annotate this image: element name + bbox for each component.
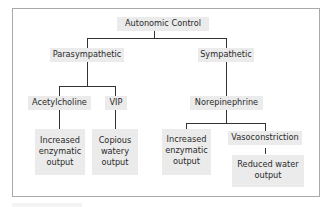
node-label-line: Increased (164, 134, 209, 145)
node-label-line: watery (94, 146, 136, 157)
connector (265, 123, 266, 131)
node-label-line: output (94, 157, 136, 168)
node-label-line: enzymatic (164, 145, 209, 156)
node-label-line: Reduced water (234, 159, 302, 170)
connector (226, 110, 227, 124)
node-label-line: output (164, 156, 209, 167)
node-increased-enzymatic-output-parasympathetic: Increased enzymatic output (35, 129, 85, 175)
node-label: Norepinephrine (192, 97, 261, 108)
node-label-line: Increased (37, 135, 83, 146)
connector (226, 38, 227, 48)
connector (186, 123, 266, 124)
connector (87, 38, 88, 48)
node-parasympathetic: Parasympathetic (50, 48, 124, 62)
node-label-line: Copious (94, 135, 136, 146)
node-vip: VIP (105, 96, 127, 110)
connector (59, 110, 60, 129)
node-norepinephrine: Norepinephrine (190, 96, 263, 110)
node-label: Vasoconstriction (230, 132, 300, 143)
node-vasoconstriction: Vasoconstriction (228, 131, 302, 145)
node-label: Autonomic Control (119, 18, 207, 29)
connector (265, 148, 266, 154)
connector (226, 62, 227, 96)
node-increased-enzymatic-output-sympathetic: Increased enzymatic output (162, 129, 211, 175)
node-acetylcholine: Acetylcholine (28, 96, 91, 110)
node-label-line: output (37, 157, 83, 168)
connector (87, 62, 88, 87)
node-sympathetic: Sympathetic (198, 48, 254, 62)
node-label: Parasympathetic (52, 49, 122, 60)
node-autonomic-control: Autonomic Control (117, 17, 209, 31)
node-reduced-water-output: Reduced water output (232, 155, 304, 187)
connector (115, 110, 116, 129)
node-label: Sympathetic (200, 49, 252, 60)
node-label: VIP (107, 97, 125, 108)
node-label-line: enzymatic (37, 146, 83, 157)
connector (59, 86, 116, 87)
node-label-line: output (234, 170, 302, 181)
node-label: Acetylcholine (30, 97, 89, 108)
connector (87, 38, 227, 39)
decorative-smudge (12, 203, 82, 207)
node-copious-watery-output: Copious watery output (92, 129, 138, 175)
